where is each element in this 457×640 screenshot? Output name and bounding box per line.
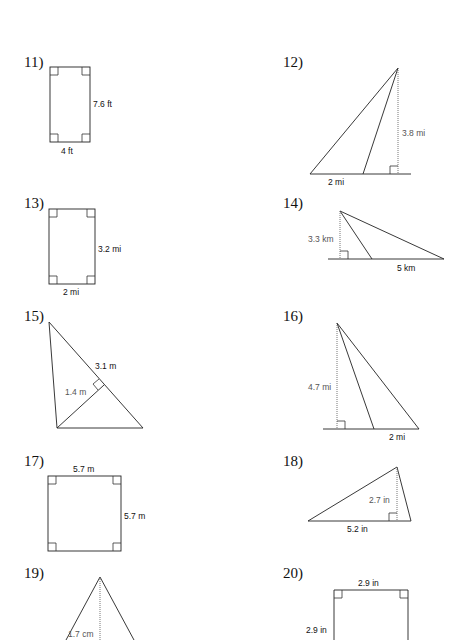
figure-11-rectangle xyxy=(50,67,90,142)
problem-number-18: 18) xyxy=(283,454,303,469)
figure-16-triangle xyxy=(323,323,419,429)
base-label-13: 2 mi xyxy=(63,288,79,297)
base-label-15: 3.1 m xyxy=(95,362,116,371)
side-label-17: 5.7 m xyxy=(124,512,145,521)
problem-number-11: 11) xyxy=(24,55,43,70)
base-label-18: 5.2 in xyxy=(347,525,368,534)
base-label-11: 4 ft xyxy=(61,147,73,156)
problem-number-15: 15) xyxy=(24,309,44,324)
problem-number-17: 17) xyxy=(24,454,44,469)
problem-number-13: 13) xyxy=(24,196,44,211)
height-label-16: 4.7 mi xyxy=(308,383,331,392)
problem-number-12: 12) xyxy=(283,55,303,70)
problem-number-19: 19) xyxy=(24,566,44,581)
top-label-17: 5.7 m xyxy=(73,465,94,474)
problem-number-20: 20) xyxy=(283,566,303,581)
side-label-20: 2.9 in xyxy=(306,626,327,635)
figure-18-triangle xyxy=(308,467,411,521)
side-label-13: 3.2 mi xyxy=(98,245,121,254)
height-label-18: 2.7 in xyxy=(369,496,390,505)
side-label-11: 7.6 ft xyxy=(93,100,112,109)
height-label-12: 3.8 mi xyxy=(402,129,425,138)
figure-15-triangle xyxy=(49,322,143,428)
figure-12-triangle xyxy=(310,68,411,174)
height-label-15: 1.4 m xyxy=(65,388,86,397)
height-label-19: 1.7 cm xyxy=(68,630,94,639)
base-label-14: 5 km xyxy=(397,264,415,273)
figure-13-rectangle xyxy=(49,209,95,284)
height-label-14: 3.3 km xyxy=(308,235,334,244)
top-label-20: 2.9 in xyxy=(358,579,379,588)
base-label-16: 2 mi xyxy=(389,433,405,442)
figure-14-triangle xyxy=(328,211,444,259)
base-label-12: 2 mi xyxy=(328,178,344,187)
figure-17-square xyxy=(48,476,121,551)
figure-20-square xyxy=(334,590,408,640)
worksheet-page: 11) 12) 13) 14) 15) 16) 17) 18) 19) 20) … xyxy=(0,0,457,640)
problem-number-14: 14) xyxy=(283,196,303,211)
figures-canvas xyxy=(0,0,457,640)
problem-number-16: 16) xyxy=(283,309,303,324)
